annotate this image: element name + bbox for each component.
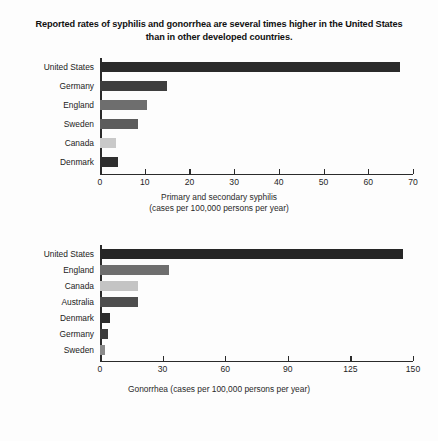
bar [100,313,110,323]
page-title: Reported rates of syphilis and gonorrhea… [34,18,404,43]
bar [100,157,118,167]
bar [100,100,147,110]
bar-category-label: Australia [0,295,94,309]
bar [100,138,116,148]
bar-category-label: Germany [0,327,94,341]
bar [100,265,169,275]
axis-tick-label: 60 [348,177,388,187]
caption-line-1: Gonorrhea (cases per 100,000 persons per… [34,384,404,395]
axis-tick-label: 150 [393,364,433,374]
syphilis-chart: United StatesGermanyEnglandSwedenCanadaD… [0,56,438,216]
bar-row: Australia [0,295,438,309]
axis-tick-label: 125 [330,364,370,374]
bar-category-label: Sweden [0,117,94,131]
axis-tick-label: 10 [125,177,165,187]
bar-category-label: Germany [0,79,94,93]
axis-tick [145,169,146,174]
bar-row: Sweden [0,117,438,131]
axis-tick-label: 0 [80,364,120,374]
axis-tick-label: 30 [214,177,254,187]
axis-tick-label: 20 [169,177,209,187]
bar [100,297,138,307]
chart-page: Reported rates of syphilis and gonorrhea… [0,0,438,441]
axis-tick [368,169,369,174]
x-axis-line [100,174,413,175]
chart-caption: Gonorrhea (cases per 100,000 persons per… [34,384,404,395]
axis-tick-label: 90 [268,364,308,374]
axis-tick-label: 70 [393,177,433,187]
bar [100,119,138,129]
axis-tick [234,169,235,174]
caption-line-1: Primary and secondary syphilis [34,192,404,203]
caption-line-2: (cases per 100,000 persons per year) [34,203,404,214]
axis-tick [225,356,226,361]
bar-row: England [0,98,438,112]
bar-category-label: Canada [0,136,94,150]
bar-row: United States [0,247,438,261]
bar-row: Canada [0,279,438,293]
axis-tick-label: 60 [205,364,245,374]
bar-row: United States [0,60,438,74]
bar-category-label: England [0,263,94,277]
axis-tick [288,356,289,361]
bar-row: Sweden [0,343,438,357]
axis-tick [413,356,414,361]
gonorrhea-chart: United StatesEnglandCanadaAustraliaDenma… [0,243,438,413]
bar-category-label: Canada [0,279,94,293]
bar-row: Germany [0,79,438,93]
axis-tick-label: 50 [304,177,344,187]
bar [100,81,167,91]
bar-category-label: United States [0,247,94,261]
bar-row: Canada [0,136,438,150]
axis-tick [279,169,280,174]
bar [100,345,105,355]
bar [100,249,403,259]
axis-tick [189,169,190,174]
bar-category-label: Sweden [0,343,94,357]
axis-tick [324,169,325,174]
axis-tick [163,356,164,361]
bar-row: Denmark [0,311,438,325]
bar-row: Denmark [0,155,438,169]
axis-tick [100,169,101,174]
bar-category-label: Denmark [0,311,94,325]
axis-tick [413,169,414,174]
axis-tick-label: 30 [143,364,183,374]
bar [100,329,108,339]
chart-caption: Primary and secondary syphilis (cases pe… [34,192,404,214]
bar-row: England [0,263,438,277]
axis-tick-label: 0 [80,177,120,187]
bar [100,281,138,291]
bar [100,62,400,72]
bar-category-label: United States [0,60,94,74]
axis-tick-label: 40 [259,177,299,187]
bar-category-label: Denmark [0,155,94,169]
axis-tick [100,356,101,361]
bar-row: Germany [0,327,438,341]
x-axis-line [100,361,413,362]
axis-tick [350,356,351,361]
bar-category-label: England [0,98,94,112]
